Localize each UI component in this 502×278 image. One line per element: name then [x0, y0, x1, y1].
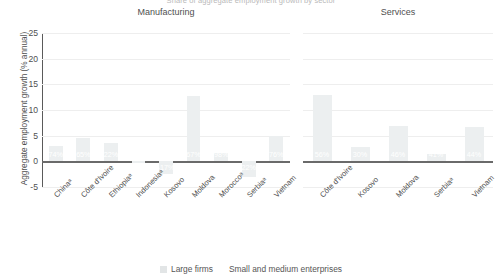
grid-line — [303, 59, 493, 60]
bar — [187, 96, 201, 162]
y-tick-label: 0 — [14, 157, 38, 166]
chart-figure: Share of aggregate employment growth by … — [0, 0, 502, 278]
bar — [427, 154, 446, 161]
legend-item-sme: Small and medium enterprises — [229, 264, 342, 274]
bar — [465, 127, 484, 161]
grid-line — [42, 33, 290, 34]
legend-label-sme: Small and medium enterprises — [229, 264, 342, 274]
zero-baseline — [303, 161, 493, 163]
grid-line — [303, 84, 493, 85]
y-tick-label: -5 — [14, 183, 38, 192]
grid-line — [303, 110, 493, 111]
y-axis-ticks: 2520151050-5 — [5, 0, 38, 278]
bar — [132, 161, 146, 163]
bar — [214, 153, 228, 161]
grid-line — [42, 59, 290, 60]
y-tick-label: 15 — [14, 80, 38, 89]
y-tick-label: 10 — [14, 106, 38, 115]
bar — [313, 95, 332, 161]
grid-line — [42, 110, 290, 111]
grid-line — [42, 136, 290, 137]
y-tick-label: 5 — [14, 132, 38, 141]
bar — [269, 136, 283, 161]
plot-area-manufacturing: 74%65%22%-17%67%98%22%76% — [42, 33, 290, 187]
bar — [49, 146, 63, 161]
bar — [351, 147, 370, 161]
panel-manufacturing: Manufacturing 74%65%22%-17%67%98%22%76% — [42, 22, 290, 187]
plot-area-services: 56%30%46%41%44% — [303, 33, 493, 187]
y-tick-label: 20 — [14, 55, 38, 64]
grid-line — [42, 84, 290, 85]
panel-title-manufacturing: Manufacturing — [42, 7, 290, 17]
grid-line — [303, 33, 493, 34]
legend-label-large-firms: Large firms — [171, 264, 213, 274]
legend-item-large-firms: Large firms — [160, 264, 213, 274]
legend-swatch-icon — [160, 266, 167, 273]
bar — [76, 138, 90, 162]
bar — [104, 143, 118, 161]
y-tick-label: 25 — [14, 29, 38, 38]
chart-legend: Large firms Small and medium enterprises — [0, 264, 502, 274]
bar — [389, 126, 408, 161]
panel-title-services: Services — [303, 7, 493, 17]
panel-services: Services 56%30%46%41%44% — [303, 22, 493, 187]
chart-supertitle: Share of aggregate employment growth by … — [0, 0, 502, 5]
